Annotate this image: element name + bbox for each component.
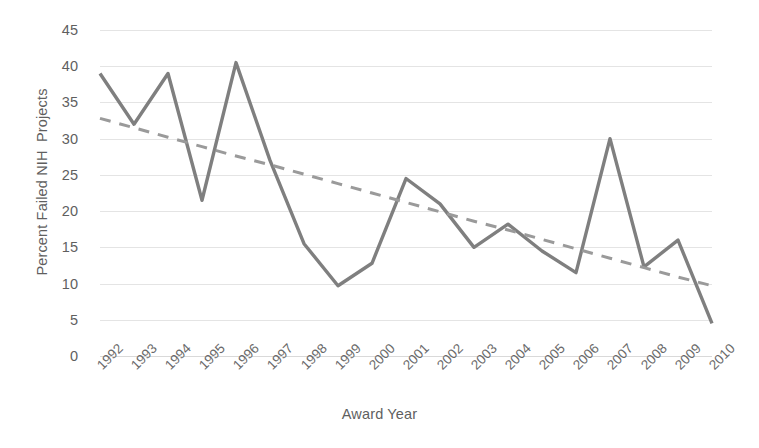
- x-axis-tick-label: 2008: [638, 341, 670, 373]
- x-axis-tick-label: 2007: [604, 341, 636, 373]
- x-axis-tick-label: 2005: [536, 341, 568, 373]
- x-axis-tick-label: 2009: [672, 341, 704, 373]
- x-axis-tick-label: 1995: [196, 341, 228, 373]
- x-axis-tick-label: 2004: [502, 341, 534, 373]
- chart-figure: Percent Failed NIH Projects 051015202530…: [0, 0, 759, 448]
- x-axis-tick-label: 2002: [434, 341, 466, 373]
- x-axis-tick-label: 1997: [264, 341, 296, 373]
- x-axis-tick-label: 1994: [162, 341, 194, 373]
- x-axis-tick-label: 2006: [570, 341, 602, 373]
- x-axis-tick-labels: 1992199319941995199619971998199920002001…: [0, 0, 759, 448]
- x-axis-tick-label: 1996: [230, 341, 262, 373]
- x-axis-title: Award Year: [0, 406, 759, 422]
- x-axis-tick-label: 2003: [468, 341, 500, 373]
- x-axis-tick-label: 1998: [298, 341, 330, 373]
- x-axis-tick-label: 2000: [366, 341, 398, 373]
- x-axis-tick-label: 2001: [400, 341, 432, 373]
- x-axis-tick-label: 1992: [94, 341, 126, 373]
- x-axis-tick-label: 2010: [706, 341, 738, 373]
- x-axis-tick-label: 1999: [332, 341, 364, 373]
- x-axis-tick-label: 1993: [128, 341, 160, 373]
